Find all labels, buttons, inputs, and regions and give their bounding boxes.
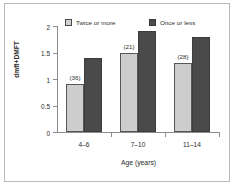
bar-annotation-2: (28)	[177, 53, 188, 60]
y-axis-tick-label: 2	[46, 23, 50, 30]
chart-plot-wrapper: 00.511.52 4–67–1011–14 Age (years) dmft+…	[5, 4, 231, 183]
bar-annotation-0: (36)	[69, 74, 80, 81]
chart-figure-frame: Twice or more Once or less 00.511.52 4–6…	[4, 3, 230, 182]
y-axis-tick-label: 1.5	[41, 50, 50, 57]
y-axis-title: dmft+DMFT	[13, 25, 20, 95]
y-axis-tick-label: 0.5	[41, 103, 50, 110]
x-axis-category-label: 11–14	[183, 141, 201, 148]
x-axis-tick	[111, 133, 112, 137]
bar-1-1	[138, 31, 156, 132]
chart-plot-area	[57, 26, 219, 132]
x-axis-category-label: 4–6	[78, 141, 89, 148]
bar-0-0	[66, 84, 84, 132]
x-axis-tick	[165, 133, 166, 137]
y-axis-tick-label: 1	[46, 76, 50, 83]
bar-1-0	[84, 58, 102, 132]
bar-0-2	[174, 63, 192, 132]
bar-0-1	[120, 53, 138, 133]
y-axis-tick-label-holder: 0	[53, 132, 57, 133]
x-axis-line	[57, 132, 220, 133]
y-axis-tick-label: 0	[46, 129, 50, 136]
x-axis-tick	[219, 133, 220, 137]
x-axis-title: Age (years)	[57, 159, 220, 166]
bar-1-2	[192, 37, 210, 132]
bar-annotation-1: (21)	[123, 43, 134, 50]
x-axis-category-label: 7–10	[131, 141, 146, 148]
